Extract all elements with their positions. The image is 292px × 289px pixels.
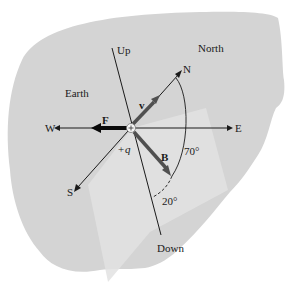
north-region-label: North: [198, 42, 224, 54]
earth-label: Earth: [65, 87, 89, 99]
up-label: Up: [117, 44, 131, 56]
charge-label: q: [125, 143, 131, 155]
force-label: F: [102, 114, 109, 126]
north-label: N: [183, 63, 191, 75]
angle-20-label: 20°: [162, 195, 177, 207]
east-label: E: [235, 122, 242, 134]
magnetic-force-diagram: Up North N Earth v F W E + q B 70° S 20°…: [0, 0, 292, 289]
west-label: W: [45, 122, 56, 134]
angle-70-label: 70°: [184, 145, 199, 157]
south-label: S: [67, 186, 73, 198]
velocity-label: v: [139, 99, 145, 111]
down-label: Down: [157, 242, 184, 254]
charge-sign: +: [118, 143, 124, 155]
magnetic-field-label: B: [161, 151, 169, 163]
